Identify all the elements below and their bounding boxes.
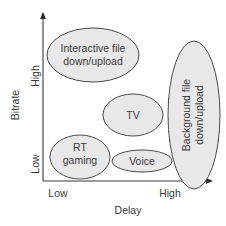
bitrate-delay-diagram: Low High Delay Low High Bitrate Interact… xyxy=(0,0,226,226)
background-file-label-line1: Background file xyxy=(180,79,192,152)
tv-label: TV xyxy=(126,109,139,121)
region-voice: Voice xyxy=(112,150,172,172)
interactive-file-label-line2: down/upload xyxy=(63,55,123,67)
y-axis-arrow-icon xyxy=(40,12,46,19)
x-axis-low-label: Low xyxy=(48,187,68,199)
y-axis-title: Bitrate xyxy=(9,90,21,121)
x-axis-title: Delay xyxy=(115,204,143,216)
background-file-label-line2: down/upload xyxy=(193,85,205,145)
y-axis-high-label: High xyxy=(29,65,41,87)
y-axis-low-label: Low xyxy=(29,154,41,174)
x-axis-high-label: High xyxy=(159,187,181,199)
region-rt-gaming: RT gaming xyxy=(50,135,110,179)
region-tv: TV xyxy=(103,94,163,136)
rt-gaming-label-line1: RT xyxy=(73,141,87,153)
region-background-file: Background file down/upload xyxy=(168,41,220,189)
voice-label: Voice xyxy=(129,155,155,167)
region-interactive-file: Interactive file down/upload xyxy=(47,28,139,82)
rt-gaming-label-line2: gaming xyxy=(63,154,98,166)
interactive-file-label-line1: Interactive file xyxy=(61,42,126,54)
